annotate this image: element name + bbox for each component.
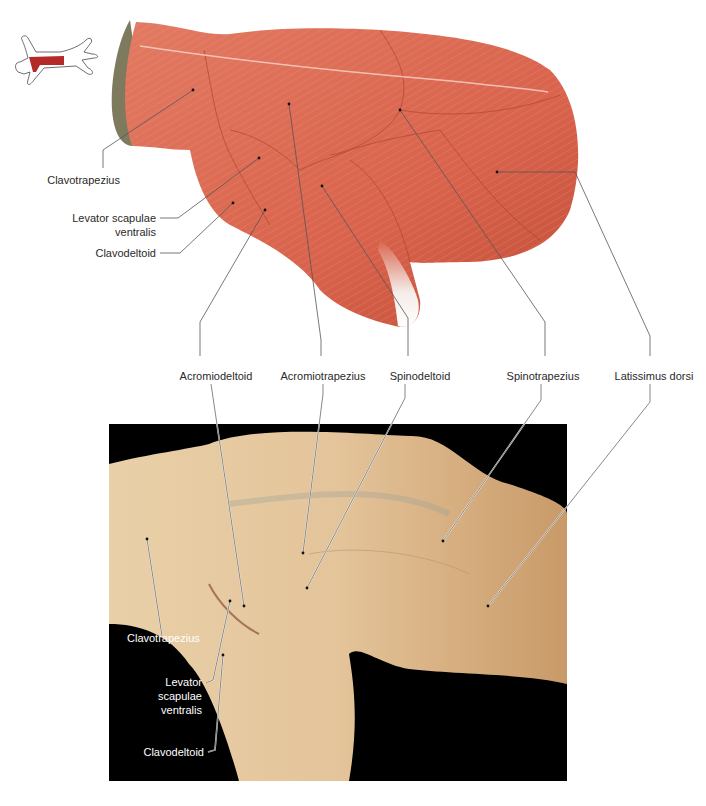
label-levator-photo-line2: scapulae: [140, 690, 202, 703]
figure-stage: Clavotrapezius Levator scapulae ventrali…: [0, 0, 706, 806]
photo-leaders: [0, 0, 706, 806]
label-levator-photo-line3: ventralis: [140, 704, 202, 717]
label-clavodeltoid-photo: Clavodeltoid: [120, 746, 204, 759]
label-levator-photo-line1: Levator: [140, 676, 202, 689]
label-clavotrapezius-photo: Clavotrapezius: [127, 632, 200, 645]
